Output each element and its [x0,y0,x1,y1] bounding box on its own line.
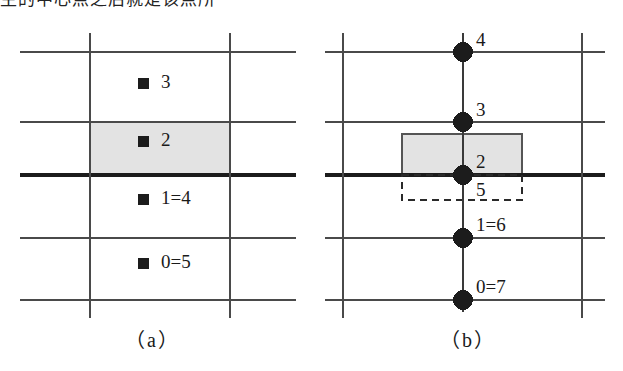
node-dot-4 [453,42,473,62]
panel-b-label-2: 2 [476,152,486,171]
node-dot-1-6 [453,228,473,248]
panel-a-label-3: 3 [161,72,171,91]
filled-square-marker [138,78,149,89]
panel-b-label-5: 5 [476,180,486,199]
panel-b-label-4: 4 [476,30,486,49]
caption-b: （b） [440,330,496,350]
figure-vector-layer [0,0,623,371]
panel-b-label-1-6: 1=6 [476,215,506,234]
panel-a-shaded-rect [90,122,230,175]
node-dot-2 [453,165,473,185]
panel-a-label-2: 2 [161,130,171,149]
caption-a: （a） [125,330,180,350]
node-dot-0-7 [453,290,473,310]
node-dot-3 [453,112,473,132]
panel-a-label-0-5: 0=5 [161,252,191,271]
filled-square-marker [138,136,149,147]
panel-b-label-3: 3 [476,100,486,119]
filled-square-marker [138,194,149,205]
filled-square-marker [138,258,149,269]
panel-b-label-0-7: 0=7 [476,277,506,296]
figure-container: 主的中心点之后就是该点所 [0,0,623,371]
panel-a-label-1-4: 1=4 [161,188,191,207]
